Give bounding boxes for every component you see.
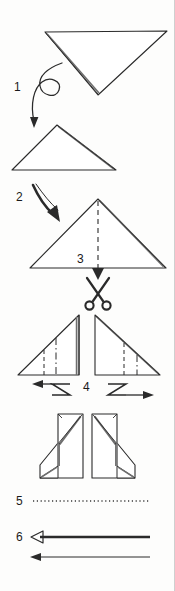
step-label-5: 5 — [16, 495, 23, 507]
step-label-1: 1 — [14, 81, 21, 93]
half-triangle-left — [18, 315, 79, 375]
triangle-up-cut — [30, 199, 166, 268]
triangle-down — [45, 31, 167, 95]
origami-diagram — [0, 0, 175, 591]
step-label-3: 3 — [77, 253, 84, 265]
step-label-2: 2 — [16, 191, 23, 203]
double-left-arrow-icon — [31, 531, 150, 543]
z-fold-arrow-right-icon — [108, 384, 154, 399]
single-left-arrow-icon — [30, 553, 150, 561]
loop-flip-arrow-icon — [30, 63, 62, 128]
step-label-4: 4 — [83, 381, 90, 393]
folded-shape-right — [92, 414, 135, 478]
triangle-up-small — [12, 125, 116, 170]
scissors-icon — [85, 278, 110, 310]
page-border — [174, 0, 175, 591]
folded-shape-left — [40, 414, 83, 478]
curved-arrow-icon — [33, 184, 60, 222]
diagram-page: 1 2 3 4 5 6 — [0, 0, 175, 591]
cut-direction-arrow-icon — [92, 268, 104, 280]
half-triangle-right — [95, 315, 160, 375]
z-fold-arrow-left-icon — [32, 380, 70, 395]
step-label-6: 6 — [16, 531, 23, 543]
